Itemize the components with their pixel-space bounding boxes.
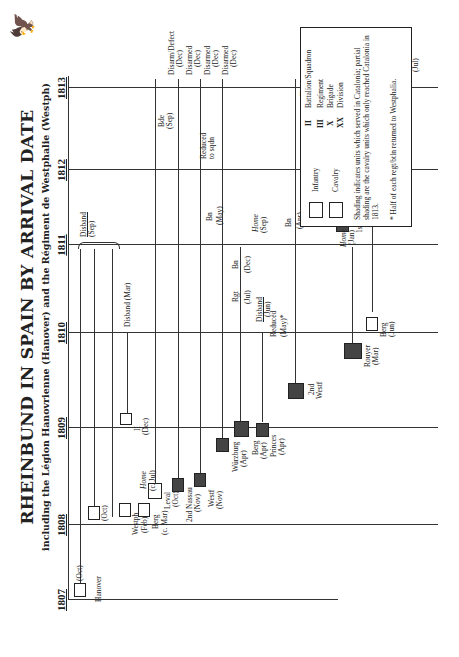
legend-div: Division (337, 82, 345, 108)
label-leval-m: (Oct) (172, 491, 180, 507)
line-ii (127, 332, 128, 419)
unit-oct-cavalry (88, 506, 100, 520)
line-wurzburg (222, 79, 223, 452)
label-2nd-nassau-m: (Nov) (194, 494, 202, 512)
year-1813: 1813 (55, 77, 67, 99)
label-rouyer-m: (Mar) (372, 348, 380, 366)
year-1812: 1812 (55, 159, 67, 181)
chart-subtitle: including the Légion Hanovrienne (Hanove… (40, 17, 51, 617)
year-1809: 1809 (55, 417, 67, 439)
legend-bn-mark: II (305, 120, 313, 126)
label-end-disarmed-4-m: (Dec) (230, 50, 238, 67)
label-reduced-may-m: (May)* (280, 315, 288, 338)
label-bn-dec: Bn (232, 260, 240, 269)
line-rouyer (352, 247, 353, 347)
year-1811: 1811 (55, 234, 67, 255)
label-bn-apr: Bn (285, 218, 293, 227)
line-2nd-nassau (178, 79, 179, 482)
label-2nd-westf-b: Westf (316, 382, 324, 399)
line-oct (94, 249, 95, 512)
line-princes (262, 332, 263, 422)
label-cmar: (c. Mar) (161, 510, 169, 535)
label-bn-may-m: (May) (216, 206, 224, 225)
line-leval (155, 79, 156, 499)
label-1st-nassau-cav-m: (Jul) (412, 58, 420, 72)
unit-hanover-infantry (74, 583, 86, 597)
label-bde-m: (Sep) (166, 113, 174, 129)
legend-cavalry-icon (329, 202, 343, 218)
label-feb: (Feb) (141, 517, 149, 533)
label-home-cjul: Home (140, 471, 148, 489)
unit-rouyer-infantry (344, 343, 362, 359)
unit-wurzburg-infantry (216, 438, 229, 452)
timeline-axis (68, 76, 69, 600)
label-oct2: (Oct) (101, 505, 109, 521)
year-1810: 1810 (55, 322, 67, 344)
label-bn-dec-m: (Dec) (244, 256, 252, 273)
label-ii-m: (Dec) (142, 418, 150, 435)
label-westf-m: (Nov) (216, 491, 224, 509)
legend-cavalry: Cavalry (332, 168, 340, 192)
year-1807: 1807 (55, 589, 67, 611)
unit-westf-cavalry (194, 473, 206, 487)
label-westph: Westph (132, 513, 140, 535)
label-oct: (Oct) (76, 565, 84, 581)
legend-infantry-icon (309, 202, 323, 218)
chart-title: RHEINBUND IN SPAIN BY ARRIVAL DATE (17, 37, 37, 597)
unit-westph-infantry (119, 503, 131, 517)
grid-1811 (68, 244, 438, 245)
line-2nd-westf (295, 79, 296, 387)
label-reduced-sqdn-1b: to sqdn (208, 137, 216, 159)
label-disband-mar: Disband (Mar) (124, 283, 132, 327)
label-bn-may: Bn (206, 212, 214, 221)
unit-berg-1810-cavalry (366, 317, 378, 331)
legend-div-mark: XX (337, 117, 345, 128)
legend-rgt: Regiment (317, 79, 325, 108)
legend-bde: Brigade (327, 84, 335, 108)
label-berg2-m: (Apr) (260, 442, 268, 459)
year-1808: 1808 (55, 514, 67, 536)
legend-bde-mark: X (327, 121, 335, 126)
label-disband-sep-m: (Sep) (88, 221, 96, 237)
line-westph (112, 249, 113, 517)
label-end-disarm-defect-m: (Dec) (176, 50, 184, 67)
grid-1809 (68, 427, 438, 428)
label-end-disarmed-2-m: (Dec) (194, 50, 202, 67)
line-berg-1809 (240, 247, 241, 422)
eagle-emblem-icon: 🦅 (8, 13, 38, 39)
label-hanover: Hanover (95, 576, 103, 602)
label-berg1: Berg (152, 515, 160, 529)
label-home-sep-m: (Sep) (260, 217, 268, 233)
legend-infantry: Infantry (312, 168, 320, 192)
legend-note-shading: Shading indicates units which served in … (353, 32, 380, 220)
unit-2nd-westf-infantry (288, 383, 304, 399)
unit-ii-infantry (120, 413, 132, 425)
brace-disband-sep (78, 242, 120, 249)
legend-note-half: * Half of each regt/btln returned to Wes… (389, 32, 398, 220)
grid-1807 (68, 599, 338, 600)
label-end-disarmed-3-m: (Dec) (212, 50, 220, 67)
label-rgt-m: (Jul) (244, 290, 252, 304)
line-hanover (80, 249, 81, 587)
label-berg3-m: (Jun) (388, 322, 396, 337)
label-cjul: (c. Jul) (149, 470, 157, 491)
unit-2nd-nassau-cavalry (172, 478, 184, 492)
label-rgt: Rgt (232, 291, 240, 302)
label-reduced-may: Reduced (270, 311, 278, 337)
legend-rgt-mark: III (317, 119, 325, 128)
legend-bn: Battalion/Squadron (305, 50, 313, 108)
label-princes-m: (Apr) (278, 438, 286, 455)
chart-page: 🦅 RHEINBUND IN SPAIN BY ARRIVAL DATE inc… (0, 0, 459, 657)
label-wurzburg-m: (Apr) (240, 450, 248, 467)
unit-berg-1809-infantry (234, 421, 249, 437)
unit-princes-infantry (256, 423, 269, 437)
legend-box: Infantry Cavalry II Battalion/Squadron I… (300, 27, 412, 227)
grid-1808 (68, 524, 438, 525)
